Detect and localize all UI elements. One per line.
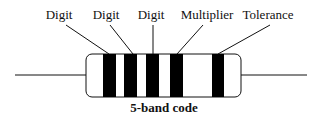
- label-digit-2: Digit: [93, 7, 120, 22]
- band-tolerance: [212, 54, 224, 97]
- band-multiplier: [170, 54, 183, 97]
- pointer-digit-1: [66, 25, 109, 54]
- pointer-digit-2: [110, 25, 133, 54]
- label-digit-1: Digit: [46, 7, 73, 22]
- resistor-diagram: Digit Digit Digit Multiplier Tolerance 5…: [0, 0, 319, 124]
- caption: 5-band code: [130, 100, 198, 115]
- label-multiplier: Multiplier: [181, 7, 234, 22]
- band-digit-3: [146, 54, 159, 97]
- pointer-multiplier: [177, 25, 203, 54]
- band-digit-2: [124, 54, 137, 97]
- label-digit-3: Digit: [138, 7, 165, 22]
- band-digit-1: [103, 54, 116, 97]
- label-tolerance: Tolerance: [242, 7, 293, 22]
- pointer-tolerance: [218, 25, 270, 54]
- resistor-svg: Digit Digit Digit Multiplier Tolerance 5…: [0, 0, 319, 124]
